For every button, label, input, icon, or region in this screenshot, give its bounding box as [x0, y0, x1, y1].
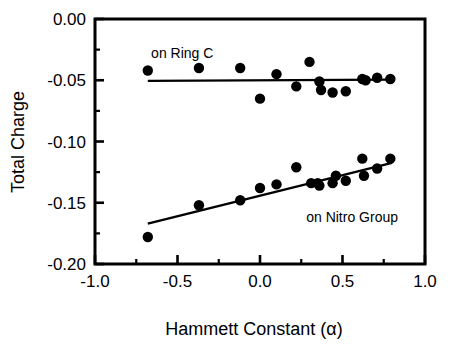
data-point: [385, 153, 395, 163]
data-point: [314, 180, 324, 190]
data-point: [314, 76, 324, 86]
x-axis-title: Hammett Constant (α): [165, 319, 342, 339]
data-point: [341, 176, 351, 186]
data-point: [316, 85, 326, 95]
data-point: [291, 81, 301, 91]
chart-figure: -1.0-0.50.00.51.00.00-0.05-0.10-0.15-0.2…: [0, 0, 453, 355]
data-point: [194, 63, 204, 73]
data-point: [359, 171, 369, 181]
y-tick-label: 0.00: [53, 10, 86, 29]
data-point: [271, 179, 281, 189]
series-annotation-2: on Nitro Group: [306, 209, 398, 225]
regression-line-1: [148, 80, 392, 81]
x-tick-label: 1.0: [413, 272, 437, 291]
data-point: [143, 232, 153, 242]
data-point: [341, 86, 351, 96]
x-tick-label: -0.5: [163, 272, 192, 291]
data-point: [291, 162, 301, 172]
axes-frame: [95, 19, 425, 264]
y-tick-label: -0.20: [47, 255, 86, 274]
data-point: [327, 87, 337, 97]
data-point: [372, 163, 382, 173]
data-point: [357, 153, 367, 163]
data-point: [304, 57, 314, 67]
axis-tick-labels: -1.0-0.50.00.51.00.00-0.05-0.10-0.15-0.2…: [47, 10, 437, 291]
y-tick-label: -0.15: [47, 194, 86, 213]
y-tick-label: -0.05: [47, 71, 86, 90]
x-tick-label: -1.0: [80, 272, 109, 291]
y-axis-title: Total Charge: [8, 91, 28, 193]
data-point: [255, 93, 265, 103]
data-point: [271, 69, 281, 79]
x-tick-label: 0.0: [248, 272, 272, 291]
data-point: [255, 183, 265, 193]
data-point: [143, 65, 153, 75]
y-tick-label: -0.10: [47, 133, 86, 152]
axis-ticks: [95, 19, 425, 264]
data-point: [235, 63, 245, 73]
x-tick-label: 0.5: [331, 272, 355, 291]
data-point: [360, 75, 370, 85]
data-point: [194, 200, 204, 210]
data-point: [331, 171, 341, 181]
data-point: [372, 73, 382, 83]
series-annotation-1: on Ring C: [151, 45, 213, 61]
regression-lines: [148, 80, 392, 224]
data-point: [235, 195, 245, 205]
data-point: [385, 74, 395, 84]
scatter-plot: -1.0-0.50.00.51.00.00-0.05-0.10-0.15-0.2…: [0, 0, 453, 355]
